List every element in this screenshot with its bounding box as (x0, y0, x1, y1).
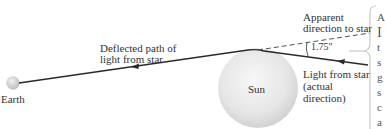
actual-label-line1: Light from star (303, 68, 370, 80)
caption-char: A (377, 10, 385, 25)
sun-label: Sun (248, 83, 265, 95)
caption-char: c (377, 100, 385, 115)
actual-label-line3: direction) (303, 92, 346, 104)
earth-label: Earth (1, 93, 25, 105)
apparent-label-line2: direction to star (303, 22, 372, 34)
angle-arc (306, 42, 308, 56)
caption-char: a (377, 115, 385, 129)
cut-off-caption: A I t s g s c a s (377, 10, 385, 129)
deflected-path-label-line2: light from star (100, 53, 163, 65)
caption-char: g (377, 70, 385, 85)
caption-char: I (377, 25, 385, 40)
arrow-right-icon (337, 59, 345, 65)
earth-icon (7, 77, 20, 90)
caption-char: t (377, 40, 385, 55)
caption-char: s (377, 55, 385, 70)
angle-label: 1.75" (311, 41, 333, 53)
caption-char: s (377, 85, 385, 100)
actual-label-line2: (actual (303, 80, 333, 92)
